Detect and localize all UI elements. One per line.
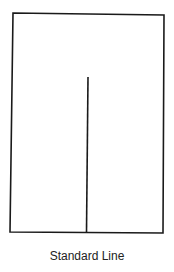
diagram-canvas bbox=[0, 0, 174, 272]
standard-line bbox=[87, 77, 89, 232]
caption: Standard Line bbox=[0, 249, 174, 263]
